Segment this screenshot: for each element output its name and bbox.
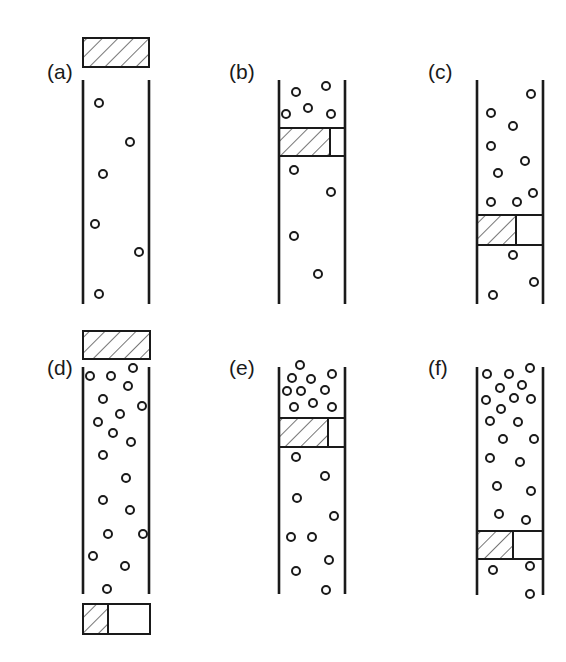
- particle: [497, 405, 505, 413]
- particle: [282, 110, 290, 118]
- particle: [297, 387, 305, 395]
- particle: [283, 387, 291, 395]
- particle: [322, 586, 330, 594]
- particle: [309, 399, 317, 407]
- piston-hatched-part: [83, 38, 149, 67]
- panel-label-b: (b): [229, 60, 255, 84]
- particle: [138, 402, 146, 410]
- particle: [321, 386, 329, 394]
- piston: [477, 215, 543, 245]
- particle: [292, 567, 300, 575]
- particle: [493, 482, 501, 490]
- particle: [116, 410, 124, 418]
- particle: [499, 435, 507, 443]
- piston-hatched-part: [477, 215, 516, 245]
- particle: [127, 438, 135, 446]
- particle: [86, 372, 94, 380]
- panel-label-a: (a): [47, 60, 73, 84]
- particle: [509, 251, 517, 259]
- particle: [109, 429, 117, 437]
- particle: [99, 395, 107, 403]
- particle: [129, 364, 137, 372]
- particle: [126, 138, 134, 146]
- particle: [527, 90, 535, 98]
- particle: [527, 487, 535, 495]
- particle: [292, 88, 300, 96]
- particle: [518, 381, 526, 389]
- particle: [322, 82, 330, 90]
- particle: [327, 188, 335, 196]
- particle: [103, 585, 111, 593]
- particle: [526, 562, 534, 570]
- particle: [135, 248, 143, 256]
- piston: [477, 531, 543, 559]
- particle: [482, 396, 490, 404]
- particle: [509, 122, 517, 130]
- particle: [522, 516, 530, 524]
- particle: [121, 562, 129, 570]
- particle: [514, 418, 522, 426]
- particle: [526, 364, 534, 372]
- panel-d: [83, 331, 150, 634]
- particle: [330, 512, 338, 520]
- particle: [91, 220, 99, 228]
- particle: [530, 435, 538, 443]
- particle: [495, 510, 503, 518]
- particle: [104, 530, 112, 538]
- particle: [99, 451, 107, 459]
- particle: [292, 453, 300, 461]
- piston-hatched-part: [279, 128, 330, 156]
- particle: [328, 370, 336, 378]
- piston: [83, 604, 150, 634]
- particle: [496, 384, 504, 392]
- particle: [327, 110, 335, 118]
- particle: [328, 403, 336, 411]
- particle: [314, 270, 322, 278]
- piston-hatched-part: [83, 604, 108, 634]
- panel-b: [279, 80, 345, 304]
- panel-a: [83, 38, 149, 304]
- particle: [95, 290, 103, 298]
- piston: [279, 128, 345, 156]
- particle: [89, 552, 97, 560]
- panel-label-e: (e): [229, 356, 255, 380]
- panel-c: [477, 80, 543, 304]
- particle: [489, 566, 497, 574]
- particle: [487, 142, 495, 150]
- particle: [321, 472, 329, 480]
- particle: [513, 198, 521, 206]
- particle: [516, 458, 524, 466]
- particle: [510, 394, 518, 402]
- particle: [287, 533, 295, 541]
- particle: [483, 370, 491, 378]
- particle: [489, 291, 497, 299]
- piston-hatched-part: [477, 531, 513, 559]
- particle: [308, 533, 316, 541]
- particle: [325, 556, 333, 564]
- particle: [126, 506, 134, 514]
- panel-label-d: (d): [47, 356, 73, 380]
- piston-diagram: [0, 0, 566, 662]
- particle: [122, 474, 130, 482]
- piston: [83, 38, 149, 67]
- particle: [94, 418, 102, 426]
- panel-label-f: (f): [428, 356, 448, 380]
- particle: [290, 166, 298, 174]
- particle: [95, 99, 103, 107]
- particle: [99, 170, 107, 178]
- piston: [279, 418, 345, 447]
- particle: [124, 382, 132, 390]
- panel-label-c: (c): [428, 60, 453, 84]
- piston-hatched-part: [83, 331, 150, 359]
- particle: [296, 361, 304, 369]
- particle: [487, 109, 495, 117]
- panel-e: [279, 361, 345, 594]
- particle: [139, 530, 147, 538]
- piston-hatched-part: [279, 418, 328, 447]
- panel-f: [477, 364, 543, 598]
- particle: [486, 417, 494, 425]
- particle: [487, 198, 495, 206]
- particle: [486, 454, 494, 462]
- particle: [307, 375, 315, 383]
- particle: [290, 232, 298, 240]
